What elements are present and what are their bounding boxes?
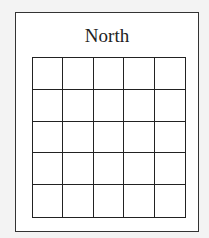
grid-cell [33,153,63,185]
grid-cell [63,153,93,185]
grid-cell [63,185,93,217]
grid-cell [63,90,93,122]
diagram-frame: North [15,12,199,232]
direction-label: North [16,25,198,47]
grid-cell [33,185,63,217]
grid-cell [94,122,124,154]
grid-cell [155,122,185,154]
grid-cell [124,90,154,122]
grid-cell [94,90,124,122]
grid-cell [124,58,154,90]
grid-cell [63,58,93,90]
grid [32,57,186,218]
grid-cell [124,122,154,154]
grid-cell [94,185,124,217]
grid-cell [94,58,124,90]
grid-cell [33,58,63,90]
grid-cell [155,90,185,122]
grid-cell [33,90,63,122]
grid-cell [155,58,185,90]
grid-cell [155,185,185,217]
grid-cell [94,153,124,185]
grid-cell [155,153,185,185]
grid-cell [63,122,93,154]
grid-cell [124,153,154,185]
grid-cell [33,122,63,154]
grid-cell [124,185,154,217]
